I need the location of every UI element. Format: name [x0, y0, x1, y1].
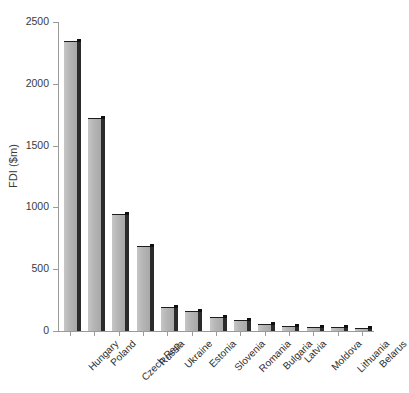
- bar-poland: [88, 118, 101, 331]
- y-axis-title-text: FDI ($m): [7, 143, 19, 187]
- x-axis-tick: [94, 332, 95, 336]
- bar-front-face: [210, 317, 223, 331]
- bar-front-face: [161, 307, 174, 331]
- bar-romania: [234, 320, 247, 331]
- bar-top-cap: [271, 322, 275, 325]
- bar-front-face: [258, 324, 271, 331]
- bar-top-cap: [198, 309, 202, 312]
- y-axis-tick-label: 0: [43, 324, 49, 336]
- y-axis-line: [58, 22, 59, 331]
- bar-front-face: [64, 41, 77, 331]
- bar-top-cap: [125, 212, 129, 215]
- bar-side-face: [125, 214, 129, 331]
- y-axis-tick-label: 2500: [26, 15, 49, 27]
- bar-slovenia: [210, 317, 223, 331]
- y-axis-tick-label: 2000: [26, 77, 49, 89]
- bar-front-face: [234, 320, 247, 331]
- bar-estonia: [185, 311, 198, 331]
- bar-russia: [137, 246, 150, 331]
- bar-front-face: [137, 246, 150, 331]
- bar-side-face: [223, 317, 227, 331]
- bar-side-face: [271, 324, 275, 331]
- x-axis-tick: [143, 332, 144, 336]
- bar-lithuania: [331, 327, 344, 331]
- x-axis-tick: [216, 332, 217, 336]
- bar-front-face: [307, 327, 320, 331]
- y-axis-tick: 0: [53, 331, 58, 332]
- plot-area: 05001000150020002500 HungaryPolandCzech …: [58, 22, 374, 331]
- bar-top-cap: [320, 325, 324, 328]
- y-axis-tick: 1500: [53, 146, 58, 147]
- bar-side-face: [198, 311, 202, 331]
- bar-front-face: [88, 118, 101, 331]
- bar-side-face: [247, 320, 251, 331]
- bar-side-face: [101, 118, 105, 331]
- y-axis-tick-label: 1000: [26, 200, 49, 212]
- x-axis-tick: [167, 332, 168, 336]
- x-axis-tick: [240, 332, 241, 336]
- x-axis-tick: [289, 332, 290, 336]
- bar-ukraine: [161, 307, 174, 331]
- bar-top-cap: [368, 326, 372, 329]
- y-axis-tick: 500: [53, 269, 58, 270]
- bar-top-cap: [150, 244, 154, 247]
- x-axis-tick: [362, 332, 363, 336]
- bar-top-cap: [295, 324, 299, 327]
- y-axis-title: FDI ($m): [0, 0, 26, 331]
- bar-top-cap: [223, 315, 227, 318]
- bar-front-face: [331, 327, 344, 331]
- x-axis-tick: [119, 332, 120, 336]
- x-axis-tick: [192, 332, 193, 336]
- bar-front-face: [185, 311, 198, 331]
- bar-side-face: [174, 307, 178, 331]
- y-axis-tick-label: 500: [31, 262, 49, 274]
- x-axis-tick: [338, 332, 339, 336]
- bar-front-face: [355, 328, 368, 331]
- bar-bulgaria: [258, 324, 271, 331]
- bar-moldova: [307, 327, 320, 331]
- bar-side-face: [150, 246, 154, 331]
- x-axis-tick: [70, 332, 71, 336]
- bar-front-face: [282, 326, 295, 331]
- y-axis-tick: 1000: [53, 207, 58, 208]
- bar-top-cap: [174, 305, 178, 308]
- bar-czech-rep: [112, 214, 125, 331]
- bar-hungary: [64, 41, 77, 331]
- bar-top-cap: [77, 39, 81, 42]
- x-axis-tick: [265, 332, 266, 336]
- bar-belarus: [355, 328, 368, 331]
- bar-latvia: [282, 326, 295, 331]
- bar-top-cap: [101, 116, 105, 119]
- bar-side-face: [77, 41, 81, 331]
- bar-front-face: [112, 214, 125, 331]
- y-axis-tick-label: 1500: [26, 139, 49, 151]
- y-axis-tick: 2000: [53, 84, 58, 85]
- x-axis-tick: [313, 332, 314, 336]
- bar-top-cap: [247, 318, 251, 321]
- bar-top-cap: [344, 325, 348, 328]
- y-axis-tick: 2500: [53, 22, 58, 23]
